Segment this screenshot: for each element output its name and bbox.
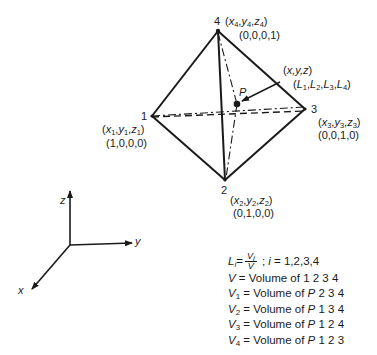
vertex-3-natural-coords: (0,0,1,0) xyxy=(318,129,359,141)
dashdot-line-1-p xyxy=(152,107,305,116)
vertex-1-label: 1 xyxy=(141,110,147,122)
coordinate-axes xyxy=(32,191,132,289)
x-axis xyxy=(32,245,70,289)
edge-4-1 xyxy=(152,31,218,116)
volume-ratio-fraction: ViV xyxy=(245,252,257,271)
area-coordinate-formula: Li=ViV ; i = 1,2,3,4 xyxy=(228,252,344,271)
vertex-2-dot xyxy=(223,178,226,181)
edge-1-2 xyxy=(152,116,225,180)
vertex-1-coords: (x1,y1,z1) xyxy=(102,123,144,137)
point-p-coords: (x,y,z) xyxy=(283,64,312,76)
point-p-dot xyxy=(234,101,241,108)
vertex-2-natural-coords: (0,1,0,0) xyxy=(233,207,274,219)
vertex-4-coords: (x4,y4,z4) xyxy=(225,15,267,29)
dashdot-line-p-2 xyxy=(226,104,237,178)
vertex-1-natural-coords: (1,0,0,0) xyxy=(106,137,147,149)
legend-row-v4: V4 = Volume of P 1 2 3 xyxy=(228,333,344,348)
z-axis-label: z xyxy=(59,194,66,206)
vertex-1-dot xyxy=(150,114,153,117)
vertex-4-natural-coords: (0,0,0,1) xyxy=(239,29,280,41)
edge-3-2 xyxy=(225,109,305,180)
y-axis xyxy=(70,243,132,245)
point-p-natural-coords: (L1,L2,L3,L4) xyxy=(293,78,351,92)
vertex-2-label: 2 xyxy=(221,184,227,196)
vertex-4-dot xyxy=(216,29,220,33)
volume-legend: Li=ViV ; i = 1,2,3,4 V = Volume of 1 2 3… xyxy=(228,252,344,348)
legend-row-v: V = Volume of 1 2 3 4 xyxy=(228,271,344,286)
legend-row-v2: V2 = Volume of P 1 3 4 xyxy=(228,302,344,317)
x-axis-label: x xyxy=(17,284,24,296)
vertex-3-label: 3 xyxy=(311,103,317,115)
legend-row-v1: V1 = Volume of P 2 3 4 xyxy=(228,286,344,301)
y-axis-label: y xyxy=(134,235,142,247)
vertex-3-coords: (x3,y3,z3) xyxy=(318,116,360,130)
vertex-3-dot xyxy=(303,107,306,110)
vertex-2-coords: (x2,y2,z2) xyxy=(230,194,272,208)
vertex-4-label: 4 xyxy=(214,15,220,27)
legend-row-v3: V3 = Volume of P 1 2 4 xyxy=(228,317,344,332)
point-p-label: P xyxy=(239,86,247,98)
point-p-pointer-arrow xyxy=(242,82,280,101)
